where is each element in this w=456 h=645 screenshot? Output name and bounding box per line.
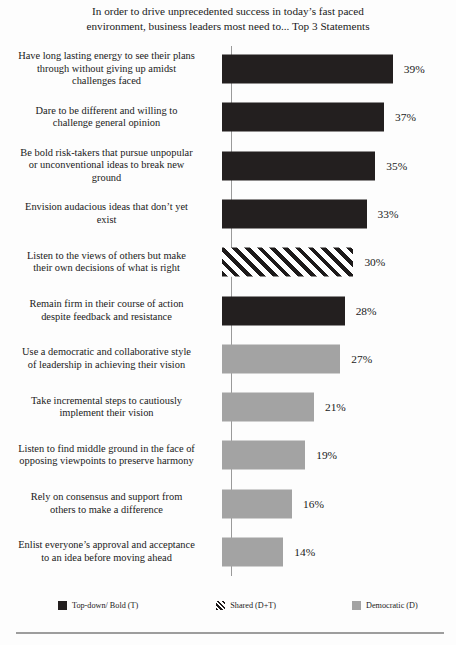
bar-row: Listen to find middle ground in the face… <box>0 432 456 478</box>
bar-demo[interactable] <box>222 393 314 422</box>
bar-row: Have long lasting energy to see their pl… <box>0 46 456 92</box>
bar-category-label: Use a democratic and collaborative style… <box>0 346 222 371</box>
chart-page: In order to drive unprecedented success … <box>0 0 456 645</box>
chart-legend: Top-down/ Bold (T)Shared (D+T)Democratic… <box>0 595 456 615</box>
bar-row: Be bold risk-takers that pursue unpopula… <box>0 143 456 189</box>
bar-track: 27% <box>222 336 456 382</box>
bar-category-label: Be bold risk-takers that pursue unpopula… <box>0 147 222 185</box>
bar-bold[interactable] <box>222 296 345 325</box>
bar-bold[interactable] <box>222 199 367 228</box>
bar-value-label: 27% <box>351 353 372 365</box>
chart-title: In order to drive unprecedented success … <box>28 4 428 33</box>
bar-demo[interactable] <box>222 344 340 373</box>
bar-track: 16% <box>222 481 456 527</box>
bar-value-label: 39% <box>404 63 425 75</box>
bar-row: Envision audacious ideas that don’t yete… <box>0 191 456 237</box>
bar-track: 28% <box>222 288 456 334</box>
bar-value-label: 28% <box>356 305 377 317</box>
bar-value-label: 19% <box>316 449 337 461</box>
bar-category-label: Listen to the views of others but maketh… <box>0 250 222 275</box>
legend-swatch-demo-icon <box>352 601 361 610</box>
bar-demo[interactable] <box>222 441 305 470</box>
bar-bold[interactable] <box>222 103 384 132</box>
bar-row: Use a democratic and collaborative style… <box>0 336 456 382</box>
bar-category-label: Rely on consensus and support fromothers… <box>0 491 222 516</box>
bar-row: Listen to the views of others but maketh… <box>0 239 456 285</box>
bar-track: 37% <box>222 94 456 140</box>
legend-label: Democratic (D) <box>366 601 418 610</box>
bar-demo[interactable] <box>222 538 283 567</box>
bar-track: 35% <box>222 143 456 189</box>
plot-area: Have long lasting energy to see their pl… <box>0 44 456 584</box>
legend-swatch-bold-icon <box>58 601 67 610</box>
bar-category-label: Enlist everyone’s approval and acceptanc… <box>0 539 222 564</box>
bar-row: Dare to be different and willing tochall… <box>0 94 456 140</box>
legend-swatch-shared-icon <box>216 601 225 610</box>
bar-category-label: Listen to find middle ground in the face… <box>0 443 222 468</box>
bar-bold[interactable] <box>222 55 393 84</box>
legend-item-bold[interactable]: Top-down/ Bold (T) <box>58 601 138 610</box>
bar-value-label: 14% <box>294 546 315 558</box>
bar-value-label: 37% <box>395 111 416 123</box>
bar-row: Enlist everyone’s approval and acceptanc… <box>0 529 456 575</box>
chart-title-line-0: In order to drive unprecedented success … <box>28 4 428 19</box>
bar-bold[interactable] <box>222 151 375 180</box>
bar-track: 33% <box>222 191 456 237</box>
bar-track: 21% <box>222 384 456 430</box>
bar-value-label: 21% <box>325 401 346 413</box>
bar-row: Rely on consensus and support fromothers… <box>0 481 456 527</box>
bar-shared[interactable] <box>222 248 353 277</box>
bar-category-label: Remain firm in their course of actiondes… <box>0 298 222 323</box>
bar-category-label: Have long lasting energy to see their pl… <box>0 50 222 88</box>
bar-category-label: Dare to be different and willing tochall… <box>0 105 222 130</box>
bar-value-label: 30% <box>364 256 385 268</box>
bar-category-label: Envision audacious ideas that don’t yete… <box>0 201 222 226</box>
legend-item-shared[interactable]: Shared (D+T) <box>216 601 276 610</box>
bar-value-label: 16% <box>303 498 324 510</box>
bar-track: 19% <box>222 432 456 478</box>
bar-category-label: Take incremental steps to cautiouslyimpl… <box>0 395 222 420</box>
footer-divider <box>16 632 444 634</box>
bar-demo[interactable] <box>222 489 292 518</box>
legend-item-demo[interactable]: Democratic (D) <box>352 601 418 610</box>
bar-row: Remain firm in their course of actiondes… <box>0 288 456 334</box>
chart-title-line-1: environment, business leaders most need … <box>28 19 428 34</box>
bar-track: 39% <box>222 46 456 92</box>
legend-label: Top-down/ Bold (T) <box>72 601 138 610</box>
bar-track: 30% <box>222 239 456 285</box>
bar-row: Take incremental steps to cautiouslyimpl… <box>0 384 456 430</box>
bar-value-label: 33% <box>378 208 399 220</box>
bar-track: 14% <box>222 529 456 575</box>
bar-value-label: 35% <box>386 160 407 172</box>
legend-label: Shared (D+T) <box>230 601 276 610</box>
